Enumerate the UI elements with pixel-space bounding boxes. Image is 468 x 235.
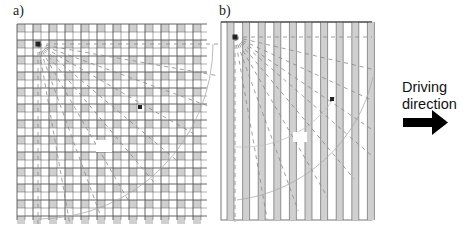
diagram-canvas bbox=[0, 0, 468, 235]
panel-a-grid bbox=[17, 24, 218, 224]
panel-b-stripes bbox=[221, 22, 374, 222]
driving-direction-label: Driving direction bbox=[402, 79, 457, 113]
driving-direction-line1: Driving bbox=[402, 79, 457, 96]
driving-direction-line2: direction bbox=[402, 96, 457, 113]
arrow-icon bbox=[403, 110, 448, 135]
